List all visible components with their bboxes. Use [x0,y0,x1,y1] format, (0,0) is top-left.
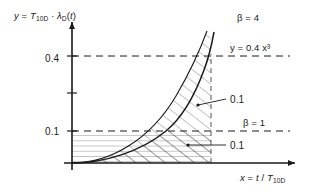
curve-equation-label: y = 0.4 x³ [230,42,270,53]
beta-1-label: β = 1 [243,117,265,128]
plot-svg [0,0,317,194]
beta-4-label: β = 4 [237,12,259,23]
y-axis-label: y = T10D · λD(t) [14,10,76,21]
y-tick-label-0.4: 0.4 [45,53,59,64]
upper-area-callout-label: 0.1 [230,94,244,105]
y-axis-label-lambda-sub: D [62,15,67,22]
figure-container: y = T10D · λD(t) x = t / T10D β = 4 β = … [0,0,317,194]
lower-area-callout-label: 0.1 [230,140,244,151]
x-axis-label: x = t / T10D [240,172,285,183]
x-axis-label-sub: 10D [273,177,285,184]
y-tick-label-0.1: 0.1 [45,126,59,137]
y-axis-label-sub: 10D [36,15,48,22]
